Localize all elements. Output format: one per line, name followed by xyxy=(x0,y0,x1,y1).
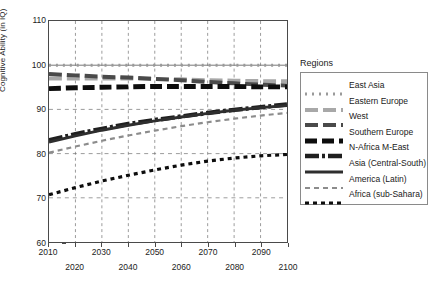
y-tick-label: 100 xyxy=(22,60,46,70)
x-tick-label: 2070 xyxy=(191,247,225,257)
legend-swatch-icon xyxy=(305,130,343,135)
legend-item-label: Africa (sub-Sahara) xyxy=(349,188,423,201)
y-tick-label: 70 xyxy=(22,193,46,203)
legend-swatch-icon xyxy=(305,192,343,197)
x-tick-label: 2010 xyxy=(31,247,65,257)
y-axis-ticks: 11010090807060 xyxy=(18,0,46,284)
plot-area xyxy=(48,20,288,243)
x-tick-mark xyxy=(288,243,289,247)
legend-swatch-icon xyxy=(305,161,343,166)
gridlines xyxy=(49,21,287,242)
legend-swatch-icon xyxy=(305,177,343,182)
x-tick-mark xyxy=(48,243,49,247)
legend-item-label: Southern Europe xyxy=(349,126,413,139)
x-tick-label: 2030 xyxy=(84,247,118,257)
legend-title: Regions xyxy=(300,58,333,68)
x-tick-mark xyxy=(75,243,76,247)
y-tick-label: 80 xyxy=(22,149,46,159)
x-tick-label: 2100 xyxy=(271,262,305,272)
x-tick-label: 2060 xyxy=(164,262,198,272)
legend-item-label: East Asia xyxy=(349,79,384,92)
x-tick-label: 2040 xyxy=(111,262,145,272)
legend-item-n-africa-m-east[interactable]: N-Africa M-East xyxy=(305,140,427,155)
legend-swatch-icon xyxy=(305,83,343,88)
legend-item-label: America (Latin) xyxy=(349,173,407,186)
legend-item-asia-central-south[interactable]: Asia (Central-South) xyxy=(305,156,427,171)
legend-item-label: West xyxy=(349,110,368,123)
plot-svg xyxy=(49,21,287,242)
x-tick-label: 2080 xyxy=(218,262,252,272)
x-tick-mark xyxy=(101,243,102,247)
legend-item-southern-europe[interactable]: Southern Europe xyxy=(305,125,427,140)
x-tick-mark xyxy=(208,243,209,247)
x-tick-mark xyxy=(235,243,236,247)
legend-item-west[interactable]: West xyxy=(305,109,427,124)
x-tick-mark xyxy=(128,243,129,247)
cognitive-ability-line-chart: Cognitive Ability (in IQ) 11010090807060… xyxy=(0,0,437,284)
x-tick-mark xyxy=(261,243,262,247)
series-line-southern-europe xyxy=(49,86,287,88)
legend-swatch-icon xyxy=(305,114,343,119)
legend-item-america-latin[interactable]: America (Latin) xyxy=(305,172,427,187)
legend-box: East AsiaEastern EuropeWestSouthern Euro… xyxy=(300,72,428,205)
x-tick-label: 2090 xyxy=(244,247,278,257)
legend-swatch-icon xyxy=(305,99,343,104)
legend-swatch-icon xyxy=(305,145,343,150)
y-tick-mark xyxy=(62,243,66,244)
y-axis-title: Cognitive Ability (in IQ) xyxy=(0,0,7,92)
legend-item-africa-sub-sahara[interactable]: Africa (sub-Sahara) xyxy=(305,187,427,202)
x-tick-mark xyxy=(181,243,182,247)
series-line-africa-sub-sahara xyxy=(49,154,287,194)
x-tick-label: 2050 xyxy=(138,247,172,257)
series-line-asia-central-south xyxy=(49,105,287,142)
y-tick-label: 110 xyxy=(22,15,46,25)
series-lines xyxy=(49,65,287,195)
legend-item-east-asia[interactable]: East Asia xyxy=(305,78,427,93)
x-tick-label: 2020 xyxy=(58,262,92,272)
legend-item-label: N-Africa M-East xyxy=(349,141,409,154)
legend-item-eastern-europe[interactable]: Eastern Europe xyxy=(305,94,427,109)
legend-item-label: Asia (Central-South) xyxy=(349,157,426,170)
x-tick-mark xyxy=(155,243,156,247)
y-tick-label: 90 xyxy=(22,104,46,114)
legend-item-label: Eastern Europe xyxy=(349,95,408,108)
